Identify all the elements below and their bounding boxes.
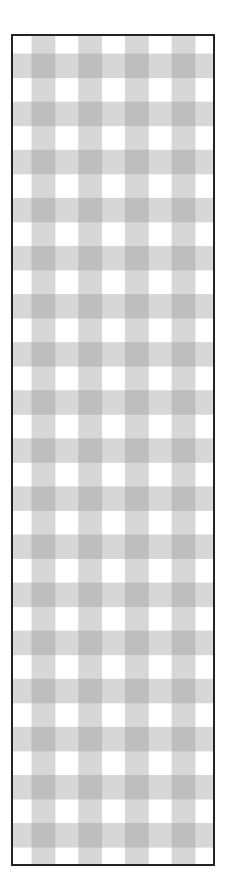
horizontal-stripes bbox=[13, 36, 213, 864]
gingham-pattern-frame bbox=[11, 34, 215, 866]
